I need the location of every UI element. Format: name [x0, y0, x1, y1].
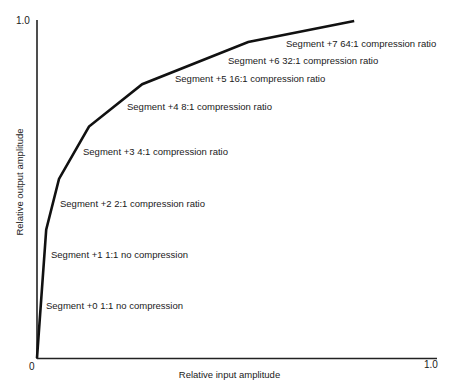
y-axis-label: Relative output amplitude: [15, 128, 25, 235]
annotation-segment-6: Segment +6 32:1 compression ratio: [228, 56, 378, 66]
x-axis-label: Relative input amplitude: [0, 370, 459, 380]
annotation-segment-7: Segment +7 64:1 compression ratio: [286, 39, 436, 49]
x-max-tick: 1.0: [424, 360, 438, 370]
annotation-segment-0: Segment +0 1:1 no compression: [46, 301, 183, 311]
annotation-segment-1: Segment +1 1:1 no compression: [51, 250, 188, 260]
annotation-segment-5: Segment +5 16:1 compression ratio: [175, 74, 325, 84]
y-max-tick: 1.0: [16, 16, 30, 26]
annotation-segment-4: Segment +4 8:1 compression ratio: [127, 102, 272, 112]
annotation-segment-2: Segment +2 2:1 compression ratio: [60, 199, 205, 209]
annotation-segment-3: Segment +3 4:1 compression ratio: [83, 147, 228, 157]
